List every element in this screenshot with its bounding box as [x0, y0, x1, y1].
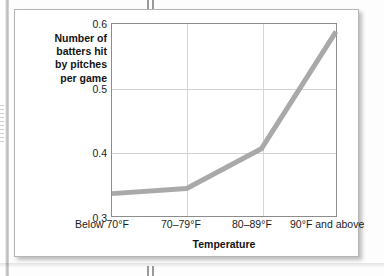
- y-tick-label-0.4: 0.4: [75, 148, 107, 159]
- x-tick-label-below-70: Below 70°F: [75, 219, 129, 230]
- scanned-page-background: Number of batters hit by pitches per gam…: [0, 0, 384, 276]
- x-tick-label-70-79: 70–79°F: [161, 219, 201, 230]
- y-axis-tick-labels: 0.6 0.5 0.4 0.3: [73, 23, 107, 217]
- binding-mark-top-left: [147, 0, 149, 9]
- binding-mark-top-right: [152, 0, 154, 9]
- figure-card: Number of batters hit by pitches per gam…: [14, 9, 359, 257]
- line-chart: Number of batters hit by pitches per gam…: [15, 10, 360, 258]
- y-tick-label-0.5: 0.5: [75, 84, 107, 95]
- x-tick-label-80-89: 80–89°F: [232, 219, 272, 230]
- x-tick-label-90-above: 90°F and above: [290, 219, 364, 230]
- y-tick-label-0.6: 0.6: [75, 19, 107, 30]
- x-axis-tick-labels: Below 70°F 70–79°F 80–89°F 90°F and abov…: [75, 219, 360, 233]
- page-bottom-shadow: [0, 263, 384, 268]
- x-axis-title: Temperature: [111, 238, 337, 250]
- plot-area: [111, 23, 337, 217]
- data-series-line: [112, 24, 336, 216]
- page-edge-speckle: [0, 105, 4, 145]
